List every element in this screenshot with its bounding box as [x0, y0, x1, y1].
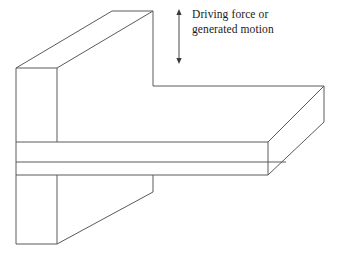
double-headed-vertical-arrow — [176, 9, 181, 64]
plate-joint-diagram — [0, 0, 341, 256]
faces-group — [16, 11, 324, 244]
arrow-head-up — [176, 9, 181, 15]
driving-force-label: Driving force or generated motion — [192, 7, 332, 37]
arrow-head-down — [176, 58, 181, 64]
horizontal-plate-front-face — [16, 142, 268, 175]
figure-canvas: Driving force or generated motion — [0, 0, 341, 256]
